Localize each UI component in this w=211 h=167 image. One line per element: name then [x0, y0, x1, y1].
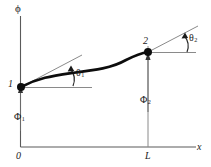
phi1-arrow [18, 87, 23, 132]
y-axis-label: ϕ [15, 3, 21, 14]
theta-1-subscript: 1 [81, 71, 84, 78]
theta2-angle-arc [182, 33, 189, 53]
node-2-label: 2 [143, 36, 148, 46]
phi-1-label: Φ1 [14, 112, 25, 123]
phi-2-label: Φ2 [140, 95, 151, 106]
figure-canvas [0, 0, 211, 167]
x-tick-label-L: L [145, 151, 151, 161]
deflection-curve [21, 52, 148, 87]
theta-1-label: θ1 [76, 68, 84, 79]
beam-element-figure: ϕ x 0 L 1 2 Φ1 Φ2 θ1 θ2 [0, 0, 211, 167]
axes-group [21, 16, 197, 147]
theta-2-label: θ2 [189, 33, 197, 44]
phi-2-subscript: 2 [147, 98, 150, 105]
theta-2-subscript: 2 [194, 36, 197, 43]
origin-label: 0 [16, 151, 21, 161]
phi-1-subscript: 1 [21, 115, 24, 122]
x-axis-label: x [197, 142, 201, 152]
node-1-dot [17, 83, 25, 91]
node-1-label: 1 [8, 79, 13, 89]
node-2-dot [144, 48, 152, 56]
theta1-angle-arc [68, 66, 75, 87]
